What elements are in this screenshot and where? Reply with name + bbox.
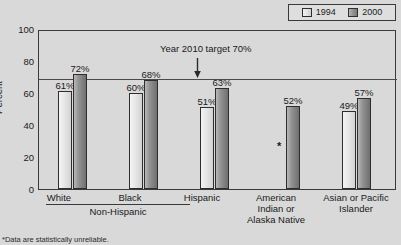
x-label-american-indian-line1: American: [244, 192, 308, 203]
bar-label-hispanic-1994: 51%: [197, 97, 216, 107]
x-label-non-hispanic: Non-Hispanic: [46, 206, 190, 217]
x-label-american-indian-line3: Alaska Native: [238, 214, 314, 225]
bar-white-1994: 61%: [58, 91, 72, 189]
bar-label-asian-1994: 49%: [339, 101, 358, 111]
target-annotation-label: Year 2010 target 70%: [160, 44, 252, 54]
bar-label-hispanic-2000: 63%: [212, 78, 231, 88]
bar-label-amind-2000: 52%: [283, 96, 302, 106]
y-tick-0: 0: [4, 185, 34, 195]
bar-label-black-2000: 68%: [141, 70, 160, 80]
non-hispanic-group-rule: [46, 204, 190, 205]
bar-label-white-1994: 61%: [55, 81, 74, 91]
chart-legend: 1994 2000: [288, 4, 396, 21]
bar-label-amind-1994-asterisk: *: [277, 141, 281, 152]
chart-footnote: *Data are statistically unreliable.: [2, 236, 109, 244]
legend-item-1994: 1994: [302, 8, 336, 17]
x-label-asian-line1: Asian or Pacific: [312, 192, 400, 203]
legend-swatch-1994-icon: [302, 8, 312, 17]
y-tick-20: 20: [4, 153, 34, 163]
down-arrow-icon: [193, 58, 202, 78]
bar-hispanic-2000: 63%: [215, 88, 229, 189]
bar-asian-2000: 57%: [357, 98, 371, 189]
y-tick-40: 40: [4, 121, 34, 131]
bar-black-1994: 60%: [129, 93, 143, 189]
legend-label-2000: 2000: [362, 8, 382, 17]
y-axis-title: Percent: [0, 81, 4, 114]
bar-asian-1994: 49%: [342, 111, 356, 189]
bar-label-white-2000: 72%: [70, 64, 89, 74]
bar-amind-2000: 52%: [286, 106, 300, 189]
x-label-white: White: [36, 192, 82, 203]
bar-hispanic-1994: 51%: [200, 107, 214, 189]
bar-label-asian-2000: 57%: [354, 88, 373, 98]
bar-white-2000: 72%: [73, 74, 87, 189]
legend-item-2000: 2000: [348, 8, 382, 17]
legend-label-1994: 1994: [316, 8, 336, 17]
bar-black-2000: 68%: [144, 80, 158, 189]
x-label-american-indian-line2: Indian or: [244, 203, 308, 214]
x-label-hispanic: Hispanic: [176, 192, 228, 203]
chart-figure: 1994 2000 100 80 60 40 20 0 Percent 61% …: [0, 0, 401, 245]
y-tick-60: 60: [4, 89, 34, 99]
legend-swatch-2000-icon: [348, 8, 358, 17]
y-tick-100: 100: [4, 25, 34, 35]
plot-area: 61% 72% 60% 68% 51% 63% * 52% 49% 57%: [38, 30, 396, 190]
bar-label-black-1994: 60%: [126, 83, 145, 93]
x-label-black: Black: [107, 192, 153, 203]
y-tick-80: 80: [4, 57, 34, 67]
y-axis-tick-labels: 100 80 60 40 20 0: [0, 30, 34, 190]
x-label-asian-line2: Islander: [312, 203, 400, 214]
